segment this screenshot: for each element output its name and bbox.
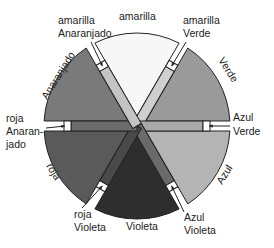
color-wheel-diagram: amarilla amarilla Verde amarilla Anaranj… (0, 0, 274, 248)
label-roja-anaranjado-1: roja (6, 112, 24, 124)
label-amarilla-verde-1: amarilla (183, 14, 220, 26)
arrow-azul-verde-icon (209, 124, 230, 127)
color-wheel: amarilla amarilla Verde amarilla Anaranj… (0, 0, 274, 248)
label-violeta: Violeta (126, 220, 158, 232)
label-amarilla-verde-2: Verde (183, 27, 211, 39)
arrow-roja-anaranjado-icon (46, 125, 65, 128)
label-azul-verde-2: Verde (233, 125, 261, 137)
strip-azul-verde (137, 121, 210, 131)
label-verde: Verde (216, 55, 241, 85)
label-amarilla-anaranjado-1: amarilla (58, 14, 95, 26)
label-azul-verde-1: Azul (233, 111, 253, 123)
label-amarilla: amarilla (119, 10, 156, 22)
label-roja-anaranjado-2: Anaran- (6, 125, 44, 137)
label-azul-violeta-2: Violeta (184, 224, 216, 236)
label-roja-anaranjado-3: jado (5, 138, 26, 150)
strip-roja-anaranjado (64, 121, 137, 131)
label-roja-violeta-2: Violeta (74, 221, 106, 233)
label-azul-violeta-1: Azul (184, 211, 204, 223)
label-roja-violeta-1: roja (74, 208, 92, 220)
label-amarilla-anaranjado-2: Anaranjado (58, 27, 112, 39)
